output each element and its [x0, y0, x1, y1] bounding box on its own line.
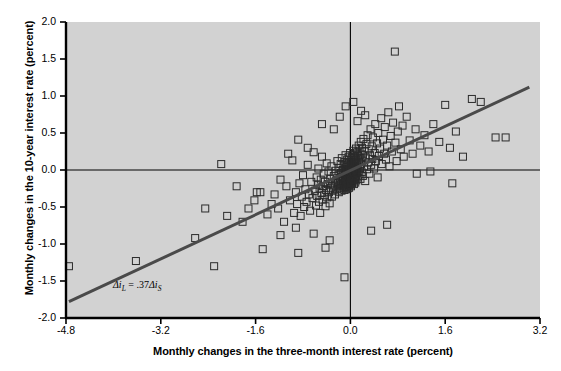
y-axis-title: Monthly changes in the 10-year interest …: [23, 8, 35, 308]
scatter-chart-figure: -2.0-1.5-1.0-0.50.00.51.01.52.0 -4.8-3.2…: [0, 0, 561, 371]
x-tick-label: -3.2: [136, 325, 186, 336]
x-tick-label: 3.2: [515, 325, 561, 336]
x-tick-label: -1.6: [231, 325, 281, 336]
x-tick-labels: -4.8-3.2-1.60.01.63.2: [0, 0, 561, 371]
x-axis-title: Monthly changes in the three-month inter…: [66, 345, 540, 357]
x-tick-label: -4.8: [41, 325, 91, 336]
fit-equation-annotation: ΔiL = .37ΔiS: [113, 279, 161, 293]
x-tick-label: 1.6: [420, 325, 470, 336]
x-tick-label: 0.0: [325, 325, 375, 336]
